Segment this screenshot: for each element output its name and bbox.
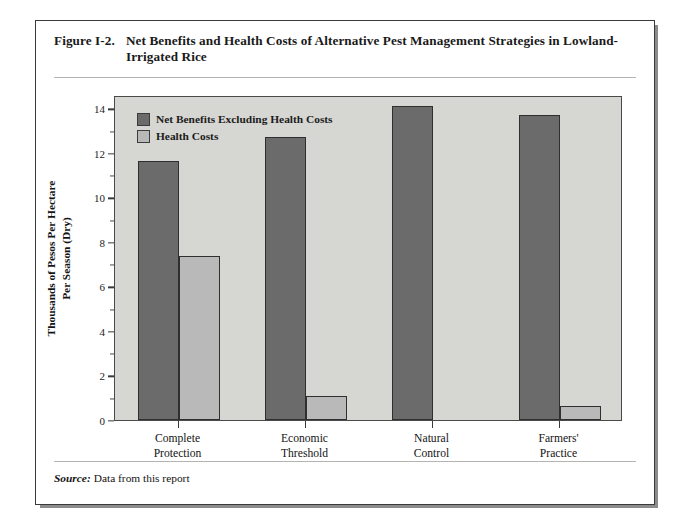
y-tick-label-2: 2 <box>100 370 106 382</box>
x-axis-label-2: NaturalControl <box>414 432 449 461</box>
y-tick-label-10: 10 <box>94 192 105 204</box>
bars-layer <box>115 97 621 420</box>
bar-net-benefits-1 <box>265 137 306 420</box>
plot-inner: Net Benefits Excluding Health Costs Heal… <box>115 97 621 420</box>
legend-swatch-health-costs <box>137 130 150 143</box>
bar-net-benefits-3 <box>519 115 560 420</box>
x-axis-label-line: Natural <box>414 432 449 447</box>
legend: Net Benefits Excluding Health Costs Heal… <box>137 111 333 145</box>
source-label: Source: <box>54 472 94 484</box>
y-tick-label-6: 6 <box>100 281 106 293</box>
x-axis-label-line: Control <box>414 447 449 462</box>
plot-area: Net Benefits Excluding Health Costs Heal… <box>114 96 622 421</box>
bar-net-benefits-2 <box>392 106 433 420</box>
x-axis-label-line: Threshold <box>281 447 328 462</box>
x-axis-label-1: EconomicThreshold <box>281 432 328 461</box>
bar-health-costs-0 <box>179 256 220 420</box>
bar-health-costs-1 <box>306 396 347 420</box>
x-tick-3 <box>559 421 560 428</box>
x-axis-label-line: Protection <box>154 447 202 462</box>
figure-number: Figure I-2. <box>54 33 126 49</box>
y-tick-label-4: 4 <box>100 326 106 338</box>
legend-item-net-benefits: Net Benefits Excluding Health Costs <box>137 111 333 128</box>
x-tick-1 <box>305 421 306 428</box>
figure-caption: Net Benefits and Health Costs of Alterna… <box>126 33 636 65</box>
x-axis-label-line: Complete <box>154 432 202 447</box>
y-tick-label-0: 0 <box>100 415 106 427</box>
x-axis-label-line: Economic <box>281 432 328 447</box>
x-axis-label-0: CompleteProtection <box>154 432 202 461</box>
source-divider <box>54 461 636 462</box>
y-tick-label-8: 8 <box>100 237 106 249</box>
y-axis: 02468101214 <box>50 96 114 421</box>
y-tick-label-14: 14 <box>94 103 105 115</box>
x-axis-label-line: Practice <box>538 447 578 462</box>
bar-health-costs-3 <box>560 406 601 420</box>
legend-label-health-costs: Health Costs <box>156 128 218 145</box>
figure-page: Figure I-2. Net Benefits and Health Cost… <box>0 0 688 532</box>
figure-container: Figure I-2. Net Benefits and Health Cost… <box>35 20 655 505</box>
legend-label-net-benefits: Net Benefits Excluding Health Costs <box>156 111 333 128</box>
x-axis-label-line: Farmers' <box>538 432 578 447</box>
x-tick-2 <box>432 421 433 428</box>
x-axis-label-3: Farmers'Practice <box>538 432 578 461</box>
source-note: Source:Data from this report <box>54 472 190 484</box>
legend-swatch-net-benefits <box>137 113 150 126</box>
x-axis: CompleteProtectionEconomicThresholdNatur… <box>114 421 622 465</box>
chart: Thousands of Pesos Per Hectare Per Seaso… <box>50 87 638 449</box>
y-tick-label-12: 12 <box>94 148 105 160</box>
legend-item-health-costs: Health Costs <box>137 128 333 145</box>
bar-net-benefits-0 <box>138 161 179 420</box>
source-text: Data from this report <box>94 472 190 484</box>
figure-title: Figure I-2. Net Benefits and Health Cost… <box>54 33 636 65</box>
x-tick-0 <box>178 421 179 428</box>
title-divider <box>54 77 636 78</box>
